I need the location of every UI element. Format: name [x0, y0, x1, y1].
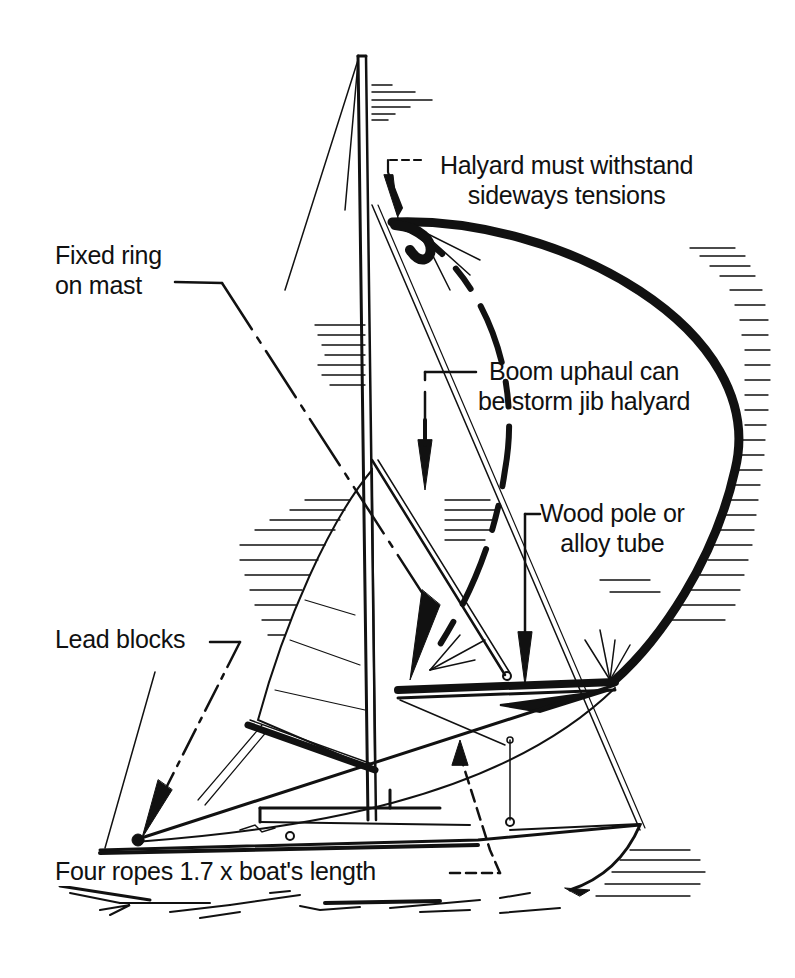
- wind-hatching-hull: [596, 850, 705, 896]
- lead-blocks-label: Lead blocks: [55, 624, 185, 654]
- sailboat-illustration: [0, 0, 795, 978]
- sail-tension-marks: [420, 230, 640, 680]
- boom-uphaul-label-line2: be storm jib halyard: [478, 386, 690, 416]
- fixed-ring-label: Fixed ring on mast: [55, 240, 162, 300]
- wind-hatching-spinnaker: [665, 248, 770, 620]
- pole-ring: [503, 672, 511, 680]
- wood-pole-label-line1: Wood pole or: [540, 498, 685, 528]
- spinnaker-leech: [392, 222, 739, 680]
- fixed-ring-label-line1: Fixed ring: [55, 240, 162, 270]
- wood-pole-arrow: [518, 632, 532, 685]
- four-ropes-label-line1: Four ropes 1.7 x boat's length: [55, 856, 376, 886]
- four-ropes-arrow: [452, 740, 468, 765]
- lead-blocks-label-line1: Lead blocks: [55, 624, 185, 654]
- halyard-label: Halyard must withstand sideways tensions: [440, 150, 693, 210]
- wind-hatching-top: [372, 85, 432, 120]
- wind-hatching-main: [240, 325, 365, 635]
- backstay: [285, 60, 358, 290]
- fixed-ring-leader: [175, 282, 222, 283]
- boom-uphaul-label: Boom uphaul can be storm jib halyard: [478, 356, 690, 416]
- halyard-label-line2: sideways tensions: [440, 180, 693, 210]
- boom-uphaul-label-line1: Boom uphaul can: [478, 356, 690, 386]
- mainsail-battens: [275, 600, 365, 710]
- wood-pole-label: Wood pole or alloy tube: [540, 498, 685, 558]
- boom-uphaul-arrow: [418, 440, 432, 490]
- halyard-label-line1: Halyard must withstand: [440, 150, 693, 180]
- four-ropes-label: Four ropes 1.7 x boat's length: [55, 856, 380, 886]
- fixed-ring-label-line2: on mast: [55, 270, 162, 300]
- wood-pole-label-line2: alloy tube: [540, 528, 685, 558]
- sailboat-diagram: Halyard must withstand sideways tensions…: [0, 0, 795, 978]
- spinnaker-luff: [392, 222, 509, 660]
- water-ripples: [70, 891, 560, 918]
- mast: [358, 56, 376, 820]
